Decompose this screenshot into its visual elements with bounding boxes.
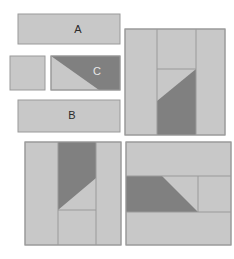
tile-a-rect bbox=[18, 14, 120, 44]
legend-tile-c: C bbox=[51, 56, 120, 90]
figure-root: A C B bbox=[0, 0, 234, 259]
legend-tile-square bbox=[10, 56, 45, 90]
tile-b-rect bbox=[18, 100, 120, 132]
legend-tile-a: A bbox=[18, 14, 120, 44]
arrangement-panel-2 bbox=[25, 142, 121, 245]
tile-square-rect bbox=[10, 56, 45, 90]
tile-arrangement-figure: A C B bbox=[0, 0, 234, 259]
arrangement-panel-1 bbox=[125, 29, 225, 135]
legend-tile-b: B bbox=[18, 100, 120, 132]
arrangement-panel-3 bbox=[126, 142, 231, 245]
